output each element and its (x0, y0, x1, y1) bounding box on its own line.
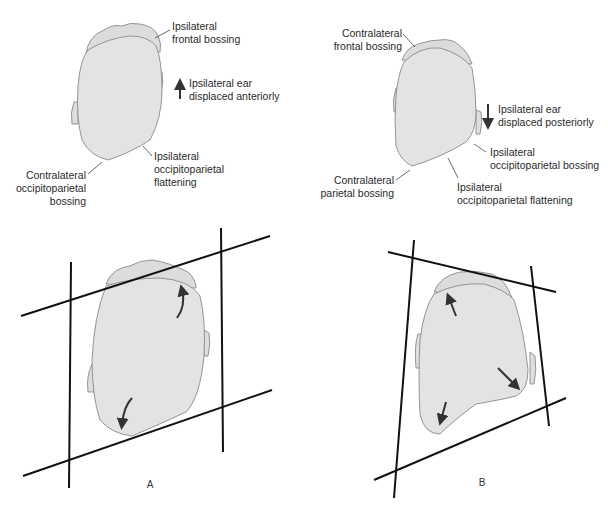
label-a-ear-l2: displaced anteriorly (189, 90, 280, 102)
left-ear (71, 102, 78, 124)
panel-b-head-bottom (415, 271, 535, 434)
skull (419, 284, 528, 434)
plagiocephaly-vs-brachycephaly-diagram: Ipsilateral frontal bossing Ipsilateral … (0, 0, 608, 510)
label-b-ipsi-boss-l2: occipitoparietal bossing (490, 159, 599, 171)
panel-label-b: B (479, 477, 486, 488)
label-a-ipsi-flat-l1: Ipsilateral (154, 150, 199, 162)
panel-a-head-top (71, 23, 162, 160)
label-a-contra-l3: bossing (50, 195, 86, 207)
label-b-ear-l2: displaced posteriorly (498, 116, 594, 128)
label-b-contra-frontal-l2: frontal bossing (334, 40, 402, 52)
label-b-contra-par-l1: Contralateral (334, 174, 394, 186)
label-a-ipsi-flat-l2: occipitoparietal (154, 163, 224, 175)
skull (92, 278, 205, 436)
label-b-ipsi-flat-l1: Ipsilateral (457, 181, 502, 193)
panel-label-a: A (147, 479, 154, 490)
label-b-contra-frontal-l1: Contralateral (342, 27, 402, 39)
label-a-contra-l2: occipitoparietal (16, 182, 86, 194)
label-a-ipsi-frontal-l1: Ipsilateral (172, 20, 217, 32)
panel-b-head-top (393, 40, 481, 166)
label-a-contra-l1: Contralateral (26, 169, 86, 181)
skull (395, 48, 476, 166)
right-ear (530, 352, 536, 384)
label-b-ipsi-boss-l1: Ipsilateral (490, 146, 535, 158)
skull (78, 36, 163, 160)
label-a-ipsi-flat-l3: flattening (154, 176, 197, 188)
label-b-ear-l1: Ipsilateral ear (498, 103, 562, 115)
label-a-ear-l1: Ipsilateral ear (189, 77, 253, 89)
panel-a-head-bottom (88, 260, 210, 436)
label-b-contra-par-l2: parietal bossing (320, 187, 394, 199)
label-b-ipsi-flat-l2: occipitoparietal flattening (457, 194, 573, 206)
right-ear (476, 110, 482, 134)
label-a-ipsi-frontal-l2: frontal bossing (172, 33, 240, 45)
